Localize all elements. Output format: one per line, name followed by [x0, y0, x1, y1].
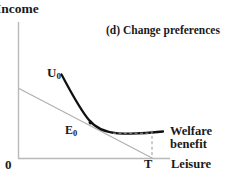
equilibrium-point-label: E0	[65, 124, 77, 137]
welfare-benefit-label: Welfare benefit	[170, 125, 212, 151]
time-endowment-label: T	[144, 158, 152, 171]
x-axis-label: Leisure	[171, 158, 211, 171]
indifference-curve-label: U0	[47, 66, 61, 80]
welfare-benefit-line2: benefit	[170, 138, 212, 151]
budget-line	[19, 89, 152, 159]
origin-label: 0	[5, 158, 12, 172]
panel-title: (d) Change preferences	[106, 24, 220, 36]
equilibrium-label-base: E	[65, 123, 73, 137]
figure-panel: Income (d) Change preferences U0 E0 Welf…	[0, 0, 229, 175]
y-axis-label: Income	[0, 2, 39, 16]
curve-label-base: U	[47, 65, 56, 80]
equilibrium-label-subscript: 0	[73, 129, 77, 138]
equilibrium-point-marker	[89, 121, 93, 125]
curve-label-subscript: 0	[56, 71, 61, 81]
